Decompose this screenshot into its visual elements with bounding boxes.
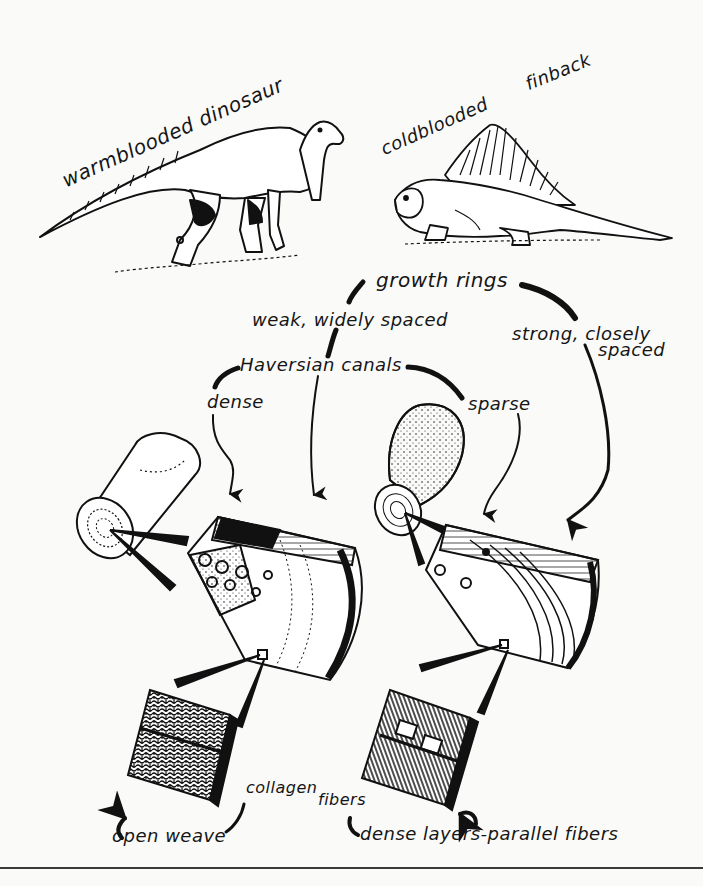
diagram-artwork (0, 0, 703, 886)
spaced-label: spaced (598, 339, 665, 360)
fibers-label: fibers (318, 790, 366, 809)
sparse-label: sparse (468, 393, 531, 414)
cold-bone-section (420, 525, 599, 714)
growth-rings-label: growth rings (376, 268, 508, 292)
dense-layers-parallel-fibers-label: dense layers-parallel fibers (360, 823, 618, 844)
warm-bone-illustration (65, 433, 200, 590)
dimetrodon-illustration (395, 125, 672, 245)
bone-histology-diagram: warmblooded dinosaur coldblooded finback… (0, 0, 703, 886)
bottom-rule (0, 867, 703, 869)
hadrosaur-illustration (40, 122, 343, 272)
collagen-label: collagen (246, 778, 317, 797)
warm-fiber-block (128, 690, 238, 806)
warm-bone-section (175, 517, 362, 727)
open-weave-label: open weave (112, 825, 226, 846)
cold-fiber-block (362, 690, 478, 810)
weak-widely-spaced-label: weak, widely spaced (252, 309, 448, 330)
haversian-canals-label: Haversian canals (240, 354, 402, 375)
dense-label: dense (207, 391, 264, 412)
haversian-canals-connectors (213, 367, 520, 514)
